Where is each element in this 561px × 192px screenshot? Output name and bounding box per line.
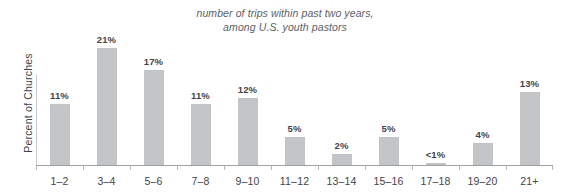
bar-chart: number of trips within past two years, a… bbox=[0, 0, 561, 192]
plot-area: 11%1–221%3–417%5–611%7–812%9–105%11–122%… bbox=[36, 12, 553, 166]
bar-value-label: 4% bbox=[476, 129, 490, 140]
y-axis-title: Percent of Churches bbox=[22, 28, 34, 178]
x-axis-tick bbox=[271, 166, 272, 170]
bar-group[interactable]: 11%7–8 bbox=[177, 12, 224, 165]
x-axis-label: 17–18 bbox=[420, 175, 450, 187]
x-axis-tick bbox=[365, 166, 366, 170]
x-axis-label: 13–14 bbox=[326, 175, 356, 187]
bar-group[interactable]: 13%21+ bbox=[506, 12, 553, 165]
x-axis-line bbox=[36, 165, 553, 166]
bar-group[interactable]: 21%3–4 bbox=[83, 12, 130, 165]
x-axis-label: 15–16 bbox=[373, 175, 403, 187]
bar-group[interactable]: 12%9–10 bbox=[224, 12, 271, 165]
x-axis-tick bbox=[177, 166, 178, 170]
x-axis-tick bbox=[130, 166, 131, 170]
bar-value-label: 5% bbox=[382, 123, 396, 134]
bar-value-label: 2% bbox=[335, 140, 349, 151]
bar[interactable] bbox=[379, 137, 399, 165]
bar[interactable] bbox=[520, 92, 540, 165]
bar-value-label: 13% bbox=[520, 78, 539, 89]
bar-group[interactable]: 11%1–2 bbox=[36, 12, 83, 165]
x-axis-label: 11–12 bbox=[280, 175, 309, 187]
x-axis-label: 7–8 bbox=[191, 175, 209, 187]
bar-value-label: 17% bbox=[144, 56, 163, 67]
bar-group[interactable]: 4%19–20 bbox=[459, 12, 506, 165]
bar-group[interactable]: 17%5–6 bbox=[130, 12, 177, 165]
bar[interactable] bbox=[191, 104, 211, 166]
x-axis-tick bbox=[552, 166, 553, 170]
x-axis-label: 3–4 bbox=[97, 175, 115, 187]
x-axis-tick bbox=[412, 166, 413, 170]
x-axis-label: 21+ bbox=[520, 175, 538, 187]
x-axis-tick bbox=[36, 166, 37, 170]
bar-group[interactable]: <1%17–18 bbox=[412, 12, 459, 165]
x-axis-tick bbox=[224, 166, 225, 170]
bar[interactable] bbox=[50, 104, 70, 166]
bar[interactable] bbox=[426, 163, 446, 165]
bar-value-label: 11% bbox=[50, 90, 69, 101]
x-axis-tick bbox=[83, 166, 84, 170]
x-axis-tick bbox=[506, 166, 507, 170]
x-axis-label: 19–20 bbox=[467, 175, 497, 187]
bar[interactable] bbox=[238, 98, 258, 165]
bar-group[interactable]: 5%11–12 bbox=[271, 12, 318, 165]
x-axis-label: 1–2 bbox=[50, 175, 68, 187]
x-axis-tick bbox=[318, 166, 319, 170]
bar-value-label: 5% bbox=[288, 123, 302, 134]
bar-value-label: <1% bbox=[426, 149, 446, 160]
bar-group[interactable]: 5%15–16 bbox=[365, 12, 412, 165]
bar[interactable] bbox=[97, 48, 117, 165]
bar[interactable] bbox=[144, 70, 164, 165]
bar[interactable] bbox=[285, 137, 305, 165]
bar-group[interactable]: 2%13–14 bbox=[318, 12, 365, 165]
bar[interactable] bbox=[332, 154, 352, 165]
x-axis-label: 9–10 bbox=[235, 175, 259, 187]
bar-value-label: 11% bbox=[191, 90, 210, 101]
bar[interactable] bbox=[473, 143, 493, 165]
bar-value-label: 12% bbox=[238, 84, 257, 95]
bar-value-label: 21% bbox=[97, 34, 116, 45]
x-axis-tick bbox=[459, 166, 460, 170]
x-axis-label: 5–6 bbox=[144, 175, 162, 187]
